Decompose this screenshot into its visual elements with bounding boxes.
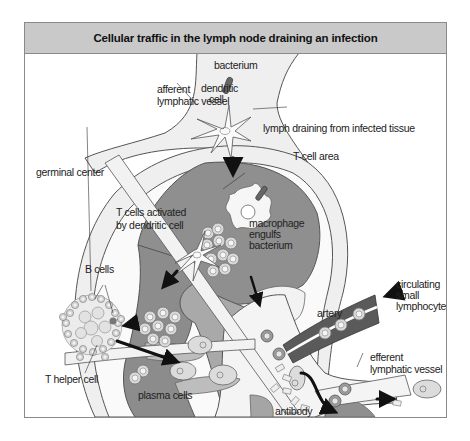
label-b-cells: B cells	[85, 263, 114, 275]
label-t-cells-activated-2: by dendritic cell	[116, 219, 183, 231]
diagram-title: Cellular traffic in the lymph node drain…	[94, 32, 378, 44]
label-germinal-center: germinal center	[36, 166, 104, 178]
label-afferent-1: afferent	[157, 83, 190, 95]
label-antibody: antibody	[275, 405, 312, 417]
label-lymph-draining: lymph draining from infected tissue	[263, 122, 415, 134]
label-circulating-3: lymphocytes	[396, 300, 447, 312]
diagram-frame: Cellular traffic in the lymph node drain…	[24, 22, 447, 418]
title-bar: Cellular traffic in the lymph node drain…	[25, 23, 446, 54]
label-t-cells-activated-1: T cells activated	[116, 206, 186, 218]
label-bacterium: bacterium	[214, 59, 257, 71]
label-efferent-2: lymphatic vessel	[370, 363, 442, 375]
label-artery: artery	[317, 307, 342, 319]
label-afferent-2: lymphatic vessel	[157, 95, 229, 107]
label-t-cell-area: T-cell area	[293, 150, 339, 162]
label-plasma-cells: plasma cells	[138, 389, 192, 401]
label-macrophage-3: bacterium	[249, 239, 292, 251]
label-efferent-1: efferent	[370, 351, 403, 363]
label-t-helper-cell: T helper cell	[45, 373, 98, 385]
